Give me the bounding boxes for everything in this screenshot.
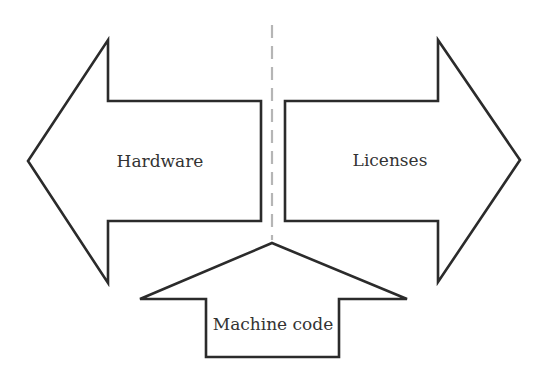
hardware-label: Hardware: [117, 151, 204, 171]
machine-code-label: Machine code: [213, 314, 334, 334]
machine-code-arrow-up: [140, 243, 407, 357]
licenses-label: Licenses: [353, 150, 428, 170]
